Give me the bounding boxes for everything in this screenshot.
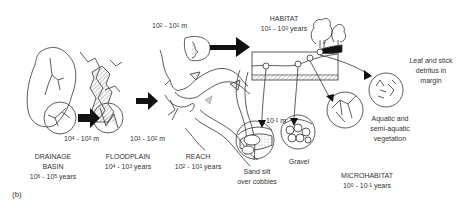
arrow-floodplain-to-reach bbox=[136, 92, 158, 110]
reach-to-habitat-size-label: 102 - 101 m bbox=[152, 21, 187, 31]
gravel-circle bbox=[281, 115, 315, 149]
vegetation-label: Aquatic and semi-aquatic vegetation bbox=[365, 114, 415, 144]
drainage-basin-drawing bbox=[27, 47, 76, 134]
basin-to-floodplain-size-label: 104 - 103 m bbox=[64, 134, 99, 144]
microhabitat-label: MICROHABITAT 100 - 10-1 years bbox=[335, 171, 399, 191]
floodplain-label: FLOODPLAIN 104 - 103 years bbox=[98, 152, 158, 172]
reach-label: REACH 102 - 101 years bbox=[168, 152, 228, 172]
habitat-title: HABITAT 101 - 100 years bbox=[254, 14, 314, 34]
sand-silt-label: Sand silt over cobbles bbox=[232, 167, 282, 187]
drainage-basin-label: DRAINAGE BASIN 106 - 105 years bbox=[22, 152, 84, 182]
floodplain-to-reach-size-label: 103 - 102 m bbox=[130, 134, 165, 144]
figure-label: (b) bbox=[12, 190, 22, 200]
microhabitat-size-label: 10-1 m bbox=[266, 116, 286, 126]
leaf-detritus-circle bbox=[369, 73, 403, 107]
arrow-reach-to-habitat bbox=[210, 37, 250, 57]
leaf-detritus-label: Leaf and stick detritus in margin bbox=[405, 56, 457, 86]
river-hierarchy-diagram: 102 - 101 m HABITAT 101 - 100 years Leaf… bbox=[0, 0, 458, 209]
gravel-label: Gravel bbox=[286, 157, 312, 167]
